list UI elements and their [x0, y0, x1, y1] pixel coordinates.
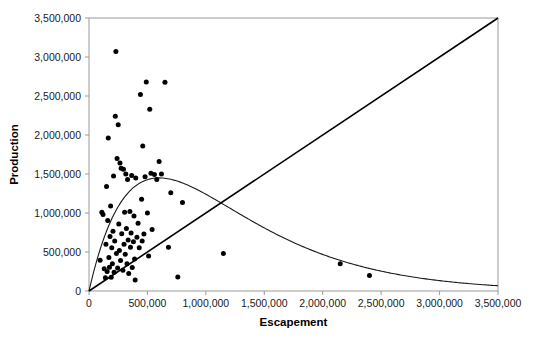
- data-point: [109, 245, 114, 250]
- data-point: [129, 230, 134, 235]
- data-point: [338, 261, 343, 266]
- x-axis-title: Escapement: [260, 316, 328, 328]
- y-axis-title: Production: [8, 124, 20, 185]
- data-point: [124, 261, 129, 266]
- data-point: [110, 229, 115, 234]
- data-point: [367, 273, 372, 278]
- data-point: [162, 80, 167, 85]
- data-point: [140, 143, 145, 148]
- data-point: [166, 245, 171, 250]
- data-point: [150, 227, 155, 232]
- data-point: [115, 265, 120, 270]
- data-point: [147, 107, 152, 112]
- data-point: [138, 92, 143, 97]
- data-point: [145, 211, 150, 216]
- y-tick-label: 500,000: [43, 246, 81, 258]
- data-point: [112, 239, 117, 244]
- data-point: [133, 175, 138, 180]
- data-point: [152, 172, 157, 177]
- data-point: [124, 226, 129, 231]
- data-point: [157, 159, 162, 164]
- x-tick-label: 1,500,000: [241, 297, 288, 309]
- data-point: [117, 248, 122, 253]
- data-point: [103, 275, 108, 280]
- data-point: [131, 239, 136, 244]
- y-tick-label: 1,500,000: [34, 168, 81, 180]
- data-point: [131, 214, 136, 219]
- x-tick-label: 0: [86, 297, 92, 309]
- data-point: [123, 252, 128, 257]
- data-point: [126, 271, 131, 276]
- data-point: [139, 197, 144, 202]
- data-point: [116, 221, 121, 226]
- x-tick-label: 3,000,000: [416, 297, 463, 309]
- data-point: [132, 257, 137, 262]
- data-point: [122, 210, 127, 215]
- data-point: [127, 209, 132, 214]
- data-point: [119, 231, 124, 236]
- data-point: [221, 251, 226, 256]
- y-tick-label: 3,500,000: [34, 12, 81, 24]
- data-point: [128, 245, 133, 250]
- data-point: [108, 234, 113, 239]
- data-point: [113, 114, 118, 119]
- data-point: [141, 232, 146, 237]
- chart-canvas: 0500,0001,000,0001,500,0002,000,0002,500…: [0, 0, 537, 338]
- data-point: [125, 177, 130, 182]
- data-point: [103, 242, 108, 247]
- data-points-group: [98, 49, 372, 283]
- data-point: [146, 253, 151, 258]
- y-tick-label: 3,000,000: [34, 51, 81, 63]
- x-tick-label: 1,000,000: [182, 297, 229, 309]
- data-point: [118, 258, 123, 263]
- data-point: [180, 200, 185, 205]
- data-point: [116, 122, 121, 127]
- data-point: [143, 174, 148, 179]
- data-point: [136, 221, 141, 226]
- data-point: [144, 79, 149, 84]
- data-point: [137, 245, 142, 250]
- replacement-line: [89, 18, 498, 291]
- data-point: [101, 212, 106, 217]
- y-tick-label: 2,500,000: [34, 90, 81, 102]
- data-point: [126, 237, 131, 242]
- data-point: [111, 173, 116, 178]
- ricker-fit-curve: [89, 178, 498, 291]
- data-point: [154, 177, 159, 182]
- data-point: [121, 167, 126, 172]
- data-point: [105, 269, 110, 274]
- y-tick-label: 1,000,000: [34, 207, 81, 219]
- data-point: [108, 203, 113, 208]
- data-point: [168, 190, 173, 195]
- x-tick-label: 2,500,000: [358, 297, 405, 309]
- data-point: [130, 265, 135, 270]
- data-point: [104, 184, 109, 189]
- data-point: [106, 136, 111, 141]
- y-tick-label: 2,000,000: [34, 129, 81, 141]
- x-tick-label: 500,000: [128, 297, 166, 309]
- data-point: [175, 274, 180, 279]
- data-point: [122, 242, 127, 247]
- data-point: [98, 258, 103, 263]
- data-point: [106, 255, 111, 260]
- data-point: [109, 275, 114, 280]
- data-point: [140, 239, 145, 244]
- data-point: [120, 268, 125, 273]
- data-point: [113, 49, 118, 54]
- data-point: [123, 172, 128, 177]
- data-point: [133, 278, 138, 283]
- data-point: [115, 156, 120, 161]
- data-point: [112, 270, 117, 275]
- x-tick-label: 3,500,000: [475, 297, 522, 309]
- scatter-chart: 0500,0001,000,0001,500,0002,000,0002,500…: [0, 0, 537, 338]
- data-point: [159, 172, 164, 177]
- x-tick-label: 2,000,000: [299, 297, 346, 309]
- y-tick-label: 0: [75, 285, 81, 297]
- data-point: [117, 161, 122, 166]
- data-point: [134, 235, 139, 240]
- data-point: [110, 261, 115, 266]
- data-point: [105, 218, 110, 223]
